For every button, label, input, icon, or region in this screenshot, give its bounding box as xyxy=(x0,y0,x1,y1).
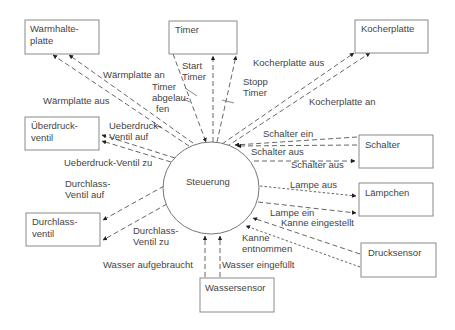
wassersensor-label: Wassersensor xyxy=(205,282,265,293)
entity-wassersensor[interactable]: Wassersensor xyxy=(200,278,274,312)
flow-label-stopp-timer-line1: Stopp xyxy=(243,76,268,87)
flow-label-wasser-eingefuellt: Wasser eingefüllt xyxy=(222,259,295,270)
entity-kocherplatte[interactable]: Kocherplatte xyxy=(355,20,428,53)
entity-timer[interactable]: Timer xyxy=(169,21,237,54)
entity-laempchen[interactable]: Lämpchen xyxy=(359,183,433,216)
flow-label-schalter-aus-in: Schalter aus xyxy=(251,146,304,157)
flow-label-timer-abgelaufen-line2: abgelau- xyxy=(152,92,189,103)
flow-label-kocherplatte-an: Kocherplatte an xyxy=(309,96,376,107)
drucksensor-label: Drucksensor xyxy=(368,247,421,258)
context-diagram: Steuerung Warmhalte- platte Timer Kocher… xyxy=(0,0,455,330)
flow-label-timer-abgelaufen-line3: fen xyxy=(156,103,169,114)
flow-label-start-timer-line1: Start xyxy=(182,60,202,71)
flow-label-waermplatte-an: Wärmplatte an xyxy=(103,69,165,80)
flow-label-durchlass-ventil-zu-line2: Ventil zu xyxy=(133,236,169,247)
entity-ueberdruckventil[interactable]: Überdruck- ventil xyxy=(25,117,99,150)
durchlassventil-label-line1: Durchlass- xyxy=(32,216,77,227)
timer-label: Timer xyxy=(175,24,199,35)
leader-stopp-timer xyxy=(222,100,234,103)
flow-label-durchlass-ventil-auf-line1: Durchlass- xyxy=(65,178,110,189)
flow-label-durchlass-ventil-zu-line1: Durchlass- xyxy=(133,225,178,236)
flow-label-ueberdruck-ventil-auf-line1: Ueberdruck- xyxy=(109,120,161,131)
warmhalteplatte-label-line2: platte xyxy=(30,35,53,46)
entity-durchlassventil[interactable]: Durchlass- ventil xyxy=(26,213,100,246)
flow-label-ueberdruck-ventil-auf-line2: Ventil auf xyxy=(109,131,148,142)
entity-drucksensor[interactable]: Drucksensor xyxy=(361,243,436,277)
warmhalteplatte-label-line1: Warmhalte- xyxy=(30,23,79,34)
durchlassventil-label-line2: ventil xyxy=(32,228,54,239)
flow-label-lampe-aus: Lampe aus xyxy=(290,179,337,190)
flow-label-kocherplatte-aus: Kocherplatte aus xyxy=(253,57,325,68)
flow-label-schalter-aus-out: Schalter aus xyxy=(291,159,344,170)
flow-label-durchlass-ventil-auf-line2: Ventil auf xyxy=(65,189,104,200)
schalter-label: Schalter xyxy=(365,139,400,150)
kocherplatte-label: Kocherplatte xyxy=(361,23,414,34)
flow-label-ueberdruck-ventil-zu: Ueberdruck-Ventil zu xyxy=(64,157,152,168)
ueberdruckventil-label-line1: Überdruck- xyxy=(31,120,78,131)
flow-label-schalter-ein: Schalter ein xyxy=(263,128,313,139)
flow-durchlass-ventil-auf-arrow xyxy=(103,186,164,220)
flow-label-kanne-entnommen-line1: Kanne xyxy=(242,232,269,243)
flow-label-stopp-timer-line2: Timer xyxy=(243,87,267,98)
entity-warmhalteplatte[interactable]: Warmhalte- platte xyxy=(25,20,99,54)
flow-label-kanne-entnommen-line2: entnommen xyxy=(242,243,292,254)
flow-label-timer-abgelaufen-line1: Timer xyxy=(152,81,176,92)
entity-schalter[interactable]: Schalter xyxy=(359,135,433,168)
flow-label-waermplatte-aus: Wärmplatte aus xyxy=(43,95,110,106)
steuerung-label: Steuerung xyxy=(186,176,230,187)
flow-label-wasser-aufgebraucht: Wasser aufgebraucht xyxy=(103,259,193,270)
flow-stopp-timer-arrow xyxy=(217,56,236,142)
flow-label-kanne-eingestellt: Kanne eingestellt xyxy=(281,217,354,228)
laempchen-label: Lämpchen xyxy=(365,187,409,198)
flow-label-start-timer-line2: Timer xyxy=(182,71,206,82)
steuerung-process-circle[interactable] xyxy=(163,142,259,234)
ueberdruckventil-label-line2: ventil xyxy=(31,132,53,143)
